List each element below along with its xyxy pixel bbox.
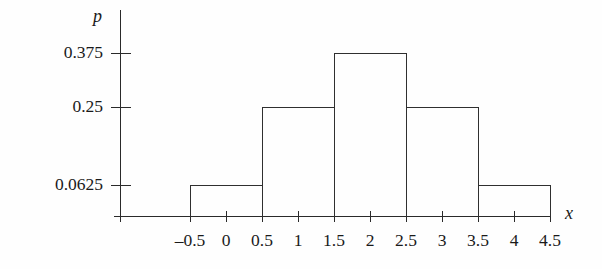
x-tick-label-4: 4 — [510, 230, 519, 250]
axis-titles: p x — [91, 6, 573, 223]
probability-histogram-chart: 0.375 0.25 0.0625 –0.5 0 0.5 1 1.5 2 2.5 — [0, 0, 602, 269]
y-tick-label-025: 0.25 — [72, 96, 103, 116]
axes-group — [114, 10, 551, 222]
y-tick-label-00625: 0.0625 — [55, 174, 103, 194]
x-tick-label-3: 3 — [438, 230, 447, 250]
x-tick-label-35: 3.5 — [467, 230, 489, 250]
x-tick-label-2: 2 — [366, 230, 375, 250]
x-tick-label-25: 2.5 — [395, 230, 417, 250]
bar-bin-2 — [263, 108, 335, 217]
x-tick-label-15: 1.5 — [323, 230, 345, 250]
y-tick-label-0375: 0.375 — [64, 42, 104, 62]
y-axis-title: p — [91, 6, 102, 26]
y-axis-tick-labels: 0.375 0.25 0.0625 — [55, 42, 103, 194]
bar-bin-4 — [407, 108, 479, 217]
x-tick-label-0: 0 — [222, 230, 231, 250]
x-tick-label-45: 4.5 — [539, 230, 561, 250]
bar-bin-3 — [335, 54, 407, 217]
x-axis-tick-labels: –0.5 0 0.5 1 1.5 2 2.5 3 3.5 4 4.5 — [174, 230, 562, 250]
histogram-bars — [191, 54, 551, 217]
x-tick-label-05: 0.5 — [251, 230, 273, 250]
x-axis-title: x — [564, 203, 573, 223]
x-tick-label-neg05: –0.5 — [174, 230, 206, 250]
x-tick-label-1: 1 — [294, 230, 303, 250]
histogram-figure: 0.375 0.25 0.0625 –0.5 0 0.5 1 1.5 2 2.5 — [0, 0, 602, 269]
